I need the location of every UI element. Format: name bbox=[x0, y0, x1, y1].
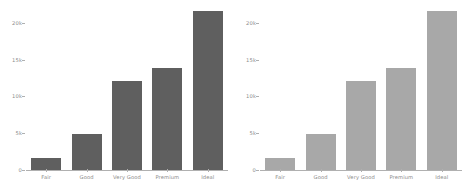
x-tick-mark-right-0 bbox=[280, 169, 281, 172]
x-tick-label-right-4: Ideal bbox=[422, 172, 462, 182]
y-tick-mark-right-0 bbox=[256, 170, 259, 171]
y-tick-mark-left-1 bbox=[22, 133, 25, 134]
bar-ideal bbox=[427, 11, 457, 170]
bar-very-good bbox=[346, 81, 376, 170]
bar-series-right bbox=[260, 8, 462, 170]
x-tick-mark-right-2 bbox=[361, 169, 362, 172]
x-tick-label-left-4: Ideal bbox=[188, 172, 228, 182]
y-tick-mark-left-2 bbox=[22, 96, 25, 97]
bar-good bbox=[306, 134, 336, 170]
bar-series-left bbox=[26, 8, 228, 170]
x-tick-mark-left-0 bbox=[46, 169, 47, 172]
y-tick-mark-right-2 bbox=[256, 96, 259, 97]
y-tick-mark-left-0 bbox=[22, 170, 25, 171]
bar-premium bbox=[386, 68, 416, 170]
bar-premium bbox=[152, 68, 182, 170]
x-tick-mark-left-1 bbox=[87, 169, 88, 172]
x-tick-label-right-0: Fair bbox=[260, 172, 300, 182]
x-tick-mark-right-4 bbox=[442, 169, 443, 172]
x-tick-label-left-2: Very Good bbox=[107, 172, 147, 182]
x-axis-labels-right: FairGoodVery GoodPremiumIdeal bbox=[260, 172, 462, 184]
x-tick-label-right-3: Premium bbox=[381, 172, 421, 182]
x-tick-label-right-2: Very Good bbox=[341, 172, 381, 182]
x-tick-mark-left-4 bbox=[208, 169, 209, 172]
x-tick-mark-left-3 bbox=[167, 169, 168, 172]
x-tick-label-left-1: Good bbox=[66, 172, 106, 182]
bar-chart-panel-right: FairGoodVery GoodPremiumIdeal 05k10k15k2… bbox=[234, 0, 468, 188]
x-tick-mark-right-3 bbox=[401, 169, 402, 172]
y-tick-mark-right-3 bbox=[256, 60, 259, 61]
bar-chart-panel-left: FairGoodVery GoodPremiumIdeal 05k10k15k2… bbox=[0, 0, 234, 188]
y-tick-mark-right-1 bbox=[256, 133, 259, 134]
x-axis-labels-left: FairGoodVery GoodPremiumIdeal bbox=[26, 172, 228, 184]
y-tick-mark-left-3 bbox=[22, 60, 25, 61]
bar-very-good bbox=[112, 81, 142, 170]
x-tick-mark-left-2 bbox=[127, 169, 128, 172]
bar-good bbox=[72, 134, 102, 170]
x-tick-mark-right-1 bbox=[321, 169, 322, 172]
x-tick-label-right-1: Good bbox=[300, 172, 340, 182]
x-tick-label-left-0: Fair bbox=[26, 172, 66, 182]
bar-ideal bbox=[193, 11, 223, 170]
y-tick-mark-right-4 bbox=[256, 23, 259, 24]
x-tick-label-left-3: Premium bbox=[147, 172, 187, 182]
chart-figure: FairGoodVery GoodPremiumIdeal 05k10k15k2… bbox=[0, 0, 468, 188]
y-tick-mark-left-4 bbox=[22, 23, 25, 24]
